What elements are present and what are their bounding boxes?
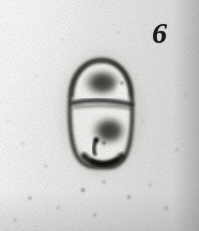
film-grain-fine [0, 0, 199, 231]
figure-number-label: 6 [152, 18, 167, 48]
figure-plate: 6 [0, 0, 199, 231]
